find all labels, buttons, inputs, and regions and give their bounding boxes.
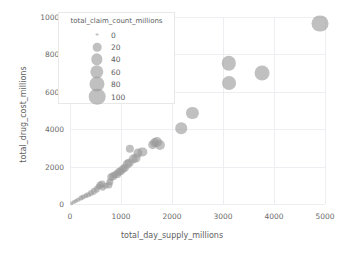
size-legend: total_claim_count_millions 020406080100 (58, 12, 175, 104)
x-tick-label: 0 (68, 212, 73, 221)
legend-marker (89, 88, 106, 105)
data-point (222, 76, 236, 90)
legend-label: 0 (111, 30, 116, 39)
legend-marker (96, 33, 99, 36)
y-tick-label: 0 (14, 200, 64, 209)
legend-entry: 0 (59, 29, 174, 40)
y-axis-title: total_drug_cost_millions (19, 40, 28, 190)
data-point (254, 66, 269, 81)
y-tick-label: 10000 (14, 13, 64, 22)
data-point (221, 56, 235, 70)
gridline-horizontal (70, 129, 325, 130)
legend-entry: 80 (59, 79, 174, 90)
gridline-horizontal (70, 204, 325, 205)
scatter-plot-figure: 0200040006000800010000 01000200030004000… (0, 0, 344, 255)
legend-marker (91, 54, 102, 65)
legend-label: 100 (111, 92, 125, 101)
legend-entry: 40 (59, 54, 174, 65)
gridline-vertical (223, 17, 224, 204)
gridline-vertical (325, 17, 326, 204)
legend-marker (93, 43, 102, 52)
legend-label: 40 (111, 55, 121, 64)
data-point (155, 139, 165, 149)
legend-entry: 20 (59, 41, 174, 52)
legend-label: 20 (111, 42, 121, 51)
legend-entry: 60 (59, 66, 174, 77)
x-tick-label: 5000 (315, 212, 334, 221)
legend-entry: 100 (59, 91, 174, 102)
data-point (311, 15, 328, 32)
legend-label: 80 (111, 80, 121, 89)
data-point (138, 147, 147, 156)
x-tick-label: 4000 (264, 212, 283, 221)
x-axis-title: total_day_supply_millions (0, 231, 344, 240)
legend-label: 60 (111, 67, 121, 76)
data-point (186, 107, 198, 119)
x-tick-label: 2000 (162, 212, 181, 221)
x-tick-label: 1000 (111, 212, 130, 221)
x-tick-label: 3000 (213, 212, 232, 221)
gridline-horizontal (70, 167, 325, 168)
data-point (175, 122, 187, 134)
legend-title: total_claim_count_millions (59, 17, 174, 25)
gridline-vertical (274, 17, 275, 204)
